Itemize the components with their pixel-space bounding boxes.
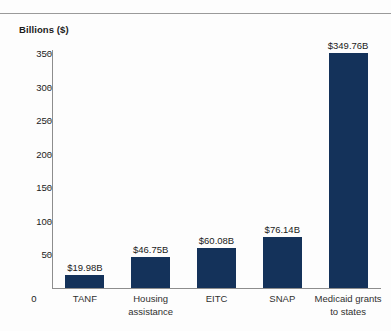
x-axis-category-line: TANF — [73, 293, 97, 306]
bar-value-label: $76.14B — [265, 224, 300, 235]
x-axis-category-line: EITC — [206, 293, 228, 306]
bar-value-label: $349.76B — [328, 40, 369, 51]
y-axis-tick-mark — [46, 254, 52, 255]
y-axis-line — [52, 50, 53, 289]
x-axis-category-line: SNAP — [269, 293, 295, 306]
x-axis-category-label: Housingassistance — [128, 293, 173, 318]
y-axis-zero-label: 0 — [26, 293, 42, 304]
bar — [263, 237, 302, 288]
bar — [329, 53, 368, 288]
x-axis-category-label: EITC — [206, 293, 228, 306]
x-axis-category-line: to states — [315, 306, 382, 319]
x-axis-category-label: TANF — [73, 293, 97, 306]
y-axis-tick-mark — [46, 87, 52, 88]
y-axis-tick-mark — [46, 221, 52, 222]
x-axis-category-label: Medicaid grantsto states — [315, 293, 382, 318]
bar-value-label: $19.98B — [67, 262, 102, 273]
y-axis-tick-mark — [46, 154, 52, 155]
x-axis-category-line: assistance — [128, 306, 173, 319]
chart-figure: Billions ($) 50100150200250300350 $19.98… — [0, 0, 391, 331]
bar-value-label: $46.75B — [133, 244, 168, 255]
bar — [65, 275, 104, 288]
bar-value-label: $60.08B — [199, 235, 234, 246]
x-axis-line — [52, 288, 381, 289]
x-axis-category-line: Medicaid grants — [315, 293, 382, 306]
y-axis-tick-mark — [46, 120, 52, 121]
bar — [131, 257, 170, 288]
y-axis-tick-mark — [46, 187, 52, 188]
x-axis-category-label: SNAP — [269, 293, 295, 306]
plot-area: 50100150200250300350 $19.98B$46.75B$60.0… — [0, 0, 391, 331]
x-axis-category-line: Housing — [128, 293, 173, 306]
bar — [197, 248, 236, 288]
y-axis-tick-mark — [46, 53, 52, 54]
